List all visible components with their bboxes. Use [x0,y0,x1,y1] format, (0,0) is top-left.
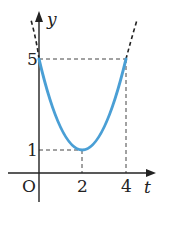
tick-label-y-5: 5 [27,49,38,69]
origin-label: O [22,176,36,196]
right-extension [126,20,137,59]
tick-label-y-1: 1 [27,140,38,160]
x-axis-arrow-icon [146,169,156,177]
tick-label-x-4: 4 [121,176,132,196]
parabola-curve [39,59,126,150]
guide-lines [39,59,126,173]
y-axis-label: y [46,9,57,29]
axes [8,18,150,202]
y-axis-arrow-icon [35,11,43,22]
tick-label-x-2: 2 [77,176,88,196]
x-axis-label: t [144,177,151,197]
parabola-chart: y t O 2 4 1 5 [0,0,169,238]
